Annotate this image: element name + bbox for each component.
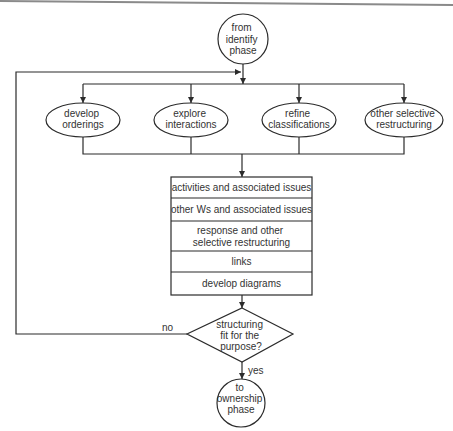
decision-label-line: structuring xyxy=(216,319,263,330)
checklist-item-line: activities and associated issues xyxy=(172,182,312,193)
checklist-item-line: selective restructuring xyxy=(193,237,290,248)
edge-label-yes: yes xyxy=(248,365,264,376)
end-label-line: phase xyxy=(227,404,255,415)
activity-label-line: orderings xyxy=(62,119,104,130)
checklist-item-line: links xyxy=(231,256,251,267)
checklist-box: activities and associated issues other W… xyxy=(171,177,312,295)
activity-explore-interactions: explore interactions xyxy=(154,103,228,137)
connector-collector-bus xyxy=(83,137,404,154)
checklist-item-other-ws: other Ws and associated issues xyxy=(171,204,312,215)
flowchart: from identify phase develop orderings ex… xyxy=(0,0,453,431)
checklist-item-line: other Ws and associated issues xyxy=(171,204,312,215)
activity-develop-orderings: develop orderings xyxy=(46,103,120,137)
checklist-item-line: develop diagrams xyxy=(202,278,281,289)
activity-label-line: explore xyxy=(173,108,206,119)
decision-label-line: fit for the xyxy=(220,330,259,341)
activity-label-line: classifications xyxy=(268,119,330,130)
activity-label: other selective restructuring xyxy=(370,108,437,130)
decision-label-line: purpose? xyxy=(220,341,262,352)
activity-other-selective-restructuring: other selective restructuring xyxy=(365,103,443,137)
start-label-line: identify xyxy=(226,34,258,45)
activity-label-line: interactions xyxy=(165,119,216,130)
start-node-from-identify-phase: from identify phase xyxy=(218,14,268,64)
decision-structuring-fit: structuring fit for the purpose? xyxy=(187,308,293,362)
activity-refine-classifications: refine classifications xyxy=(262,103,336,137)
activity-label-line: other selective xyxy=(370,108,435,119)
edge-label-no: no xyxy=(162,322,174,333)
activity-label: develop orderings xyxy=(62,108,104,130)
checklist-item-response: response and other selective restructuri… xyxy=(193,225,290,248)
activity-label-line: develop xyxy=(64,108,99,119)
end-label-line: to xyxy=(235,382,244,393)
checklist-item-links: links xyxy=(231,256,251,267)
decision-label: structuring fit for the purpose? xyxy=(216,319,265,352)
page-top-edge xyxy=(0,1,453,5)
checklist-item-activities: activities and associated issues xyxy=(172,182,312,193)
activity-label-line: refine xyxy=(285,108,310,119)
end-label-line: ownership xyxy=(217,393,263,404)
checklist-item-line: response and other xyxy=(197,225,284,236)
activity-label-line: restructuring xyxy=(376,119,432,130)
checklist-item-develop-diagrams: develop diagrams xyxy=(202,278,281,289)
start-label-line: phase xyxy=(229,45,257,56)
start-label-line: from xyxy=(232,22,252,33)
end-node-to-ownership-phase: to ownership phase xyxy=(217,379,265,427)
